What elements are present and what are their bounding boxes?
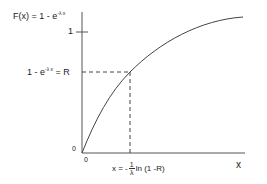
origin-y-label: 0: [72, 145, 76, 152]
x-axis-label: x: [236, 159, 241, 170]
r-label-text: 1 - e: [27, 67, 45, 77]
y-tick-one-label: 1: [68, 26, 73, 36]
fraction-numerator: 1: [129, 161, 135, 169]
x-formula-prefix: x = -: [112, 164, 128, 173]
title-exponent: -λ x: [57, 10, 65, 16]
title-text: F(x) = 1 - e: [13, 11, 57, 21]
fraction-denominator: λ: [129, 169, 135, 176]
x-formula: x = -1λln (1 -R): [112, 161, 165, 176]
r-label-suffix: = R: [56, 67, 70, 77]
cdf-curve: [82, 17, 243, 153]
origin-x-label: 0: [84, 156, 88, 163]
x-formula-suffix: ln (1 -R): [136, 164, 165, 173]
cdf-diagram: [0, 0, 267, 184]
fraction: 1λ: [129, 161, 135, 176]
r-label-exponent: -λ x: [45, 66, 53, 72]
r-label: 1 - e-λ x = R: [27, 66, 70, 77]
function-title: F(x) = 1 - e-λ x: [13, 10, 65, 21]
